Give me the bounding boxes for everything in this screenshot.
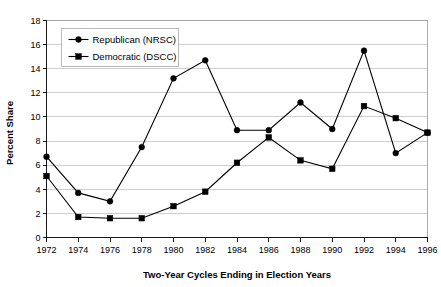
data-point <box>171 75 177 81</box>
x-tick-label-1992: 1992 <box>354 245 374 255</box>
data-point <box>139 215 145 221</box>
data-point <box>202 57 208 63</box>
x-tick-label-1980: 1980 <box>163 245 183 255</box>
x-tick-label-1972: 1972 <box>36 245 56 255</box>
data-point <box>44 154 50 160</box>
data-series <box>44 48 431 221</box>
x-tick-label-1994: 1994 <box>386 245 406 255</box>
x-tick-label-1990: 1990 <box>322 245 342 255</box>
data-point <box>329 126 335 132</box>
data-point <box>75 190 81 196</box>
series-line-0 <box>47 51 428 202</box>
data-point <box>393 115 399 121</box>
data-point <box>266 127 272 133</box>
legend-marker-circle-icon <box>76 37 82 43</box>
y-tick-label-0: 0 <box>35 233 40 243</box>
y-tick-label-12: 12 <box>30 88 40 98</box>
data-point <box>329 166 335 172</box>
series-republican-nrsc <box>44 48 431 204</box>
data-point <box>298 158 304 164</box>
y-tick-label-10: 10 <box>30 112 40 122</box>
x-tick-label-1984: 1984 <box>227 245 247 255</box>
legend-label: Democratic (DSCC) <box>93 51 177 62</box>
x-tick-label-1982: 1982 <box>195 245 215 255</box>
data-point <box>234 127 240 133</box>
x-tick-label-1996: 1996 <box>417 245 437 255</box>
data-point <box>107 215 113 221</box>
x-axis-tick-marks <box>47 238 428 242</box>
x-tick-label-1978: 1978 <box>132 245 152 255</box>
data-point <box>361 48 367 54</box>
data-point <box>44 173 50 179</box>
x-tick-label-1976: 1976 <box>100 245 120 255</box>
y-axis-title: Percent Share <box>4 101 15 165</box>
x-tick-label-1988: 1988 <box>290 245 310 255</box>
chart-container: 024681012141618 197219741976197819801982… <box>0 0 441 287</box>
data-point <box>361 103 367 109</box>
line-chart: 024681012141618 197219741976197819801982… <box>0 0 441 287</box>
y-tick-label-4: 4 <box>35 185 40 195</box>
x-tick-label-1986: 1986 <box>259 245 279 255</box>
data-point <box>75 214 81 220</box>
y-tick-label-6: 6 <box>35 160 40 170</box>
chart-legend: Republican (NRSC)Democratic (DSCC) <box>62 29 179 67</box>
data-point <box>425 130 431 136</box>
y-axis-tick-labels: 024681012141618 <box>30 16 46 243</box>
x-axis-title: Two-Year Cycles Ending in Election Years <box>143 269 331 280</box>
series-democratic-dscc <box>44 103 431 221</box>
data-point <box>393 150 399 156</box>
data-point <box>266 135 272 141</box>
data-point <box>107 198 113 204</box>
y-tick-label-8: 8 <box>35 136 40 146</box>
y-tick-label-16: 16 <box>30 40 40 50</box>
data-point <box>234 160 240 166</box>
x-axis-tick-labels: 1972197419761978198019821984198619881990… <box>36 245 437 255</box>
legend-label: Republican (NRSC) <box>93 34 176 45</box>
y-tick-label-14: 14 <box>30 64 40 74</box>
y-tick-label-18: 18 <box>30 16 40 26</box>
data-point <box>298 100 304 106</box>
data-point <box>139 144 145 150</box>
data-point <box>171 203 177 209</box>
y-tick-label-2: 2 <box>35 209 40 219</box>
legend-marker-square-icon <box>76 54 82 60</box>
data-point <box>202 189 208 195</box>
x-tick-label-1974: 1974 <box>68 245 88 255</box>
